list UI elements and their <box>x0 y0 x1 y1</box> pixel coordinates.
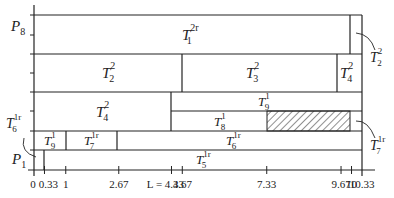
x-tick-label: 2.67 <box>109 178 129 190</box>
label-P8: P8 <box>10 18 25 37</box>
label-T9-1-right: T19 <box>258 91 270 112</box>
x-tick-label: 4.67 <box>173 178 193 190</box>
label-T5-1r: T1r5 <box>196 149 211 170</box>
label-T1-2r: T2r1 <box>182 22 199 46</box>
label-T9-1-left: T19 <box>44 130 56 151</box>
label-T6-1r-callout: T1r6 <box>6 112 21 134</box>
label-T7-1r-callout: T1r7 <box>370 134 385 156</box>
packing-diagram: 00.3312.67L = 4.334.677.339.671010.33 P8… <box>0 0 394 198</box>
label-T4-2-right: T24 <box>340 60 353 84</box>
x-tick-label: 0 <box>30 178 36 190</box>
callout-t2 <box>356 33 375 50</box>
x-tick-label: 7.33 <box>257 178 277 190</box>
label-T2-2-callout: T22 <box>370 46 382 68</box>
label-T4-2-left: T24 <box>96 99 109 123</box>
hatched-region <box>267 111 350 131</box>
label-T7-1r-left: T1r7 <box>84 130 99 151</box>
label-T8-1: T18 <box>214 111 226 132</box>
x-tick-label: 10.33 <box>350 178 375 190</box>
callout-t7 <box>356 121 375 138</box>
label-P1: P1 <box>11 151 26 170</box>
label-T6-1r: T1r6 <box>226 130 241 151</box>
x-tick-label: 0.33 <box>39 178 59 190</box>
label-T2-2: T22 <box>102 60 115 84</box>
x-tick-label: 1 <box>63 178 69 190</box>
label-T3-2: T23 <box>246 60 259 84</box>
